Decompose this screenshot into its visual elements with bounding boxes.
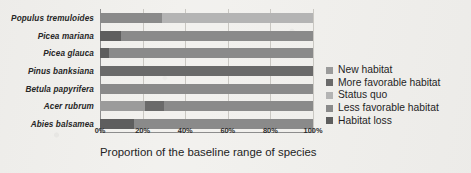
stacked-bar-chart: Populus tremuloidesPicea marianaPicea gl… [0,0,471,173]
bar-row: Picea mariana [100,31,313,41]
stacked-bar [100,84,313,94]
category-label: Betula papyrifera [25,84,94,93]
bar-row: Acer rubrum [100,101,313,111]
x-tick-label: 60% [220,126,235,135]
legend-item[interactable]: New habitat [326,64,440,77]
category-label: Acer rubrum [44,102,94,111]
legend-swatch-icon [326,79,333,86]
legend-label: Status quo [338,90,387,100]
bar-segment [100,84,313,94]
legend-item[interactable]: Less favorable habitat [326,102,440,115]
bar-segment [145,101,164,111]
bar-segment [100,101,145,111]
category-label: Pinus banksiana [28,67,94,76]
bar-segment [109,48,313,58]
category-label: Populus tremuloides [11,13,94,22]
category-label: Abies balsamea [31,120,94,129]
bar-row: Populus tremuloides [100,13,313,23]
legend-item[interactable]: Habitat loss [326,114,440,127]
x-tick-label: 100% [304,126,323,135]
bar-row: Pinus banksiana [100,66,313,76]
legend-swatch-icon [326,105,333,112]
bar-segment [100,31,121,41]
x-tick-label: 20% [135,126,150,135]
bar-row: Abies balsamea [100,119,313,129]
stacked-bar [100,119,313,129]
stacked-bar [100,101,313,111]
stacked-bar [100,66,313,76]
chart-legend: New habitatMore favorable habitatStatus … [326,64,440,127]
bar-segment [100,66,313,76]
x-tick-label: 80% [263,126,278,135]
category-label: Picea mariana [38,31,94,40]
bar-segment [162,13,313,23]
legend-label: More favorable habitat [338,78,440,88]
bar-segment [164,101,313,111]
legend-item[interactable]: Status quo [326,89,440,102]
legend-swatch-icon [326,67,333,74]
stacked-bar [100,13,313,23]
bar-row: Betula papyrifera [100,84,313,94]
x-tick-label: 40% [178,126,193,135]
bar-segment [121,31,313,41]
legend-label: Less favorable habitat [338,103,439,113]
stacked-bar [100,31,313,41]
legend-item[interactable]: More favorable habitat [326,77,440,90]
bar-row: Picea glauca [100,48,313,58]
bar-segment [100,48,109,58]
legend-swatch-icon [326,92,333,99]
category-label: Picea glauca [43,49,94,58]
gridline-100 [313,9,314,133]
plot-area: Populus tremuloidesPicea marianaPicea gl… [100,9,313,133]
x-tick-label: 0% [95,126,106,135]
stacked-bar [100,48,313,58]
x-axis-title: Proportion of the baseline range of spec… [100,146,313,158]
bar-segment [100,13,162,23]
legend-label: Habitat loss [338,116,392,126]
legend-swatch-icon [326,117,333,124]
legend-label: New habitat [338,65,392,75]
